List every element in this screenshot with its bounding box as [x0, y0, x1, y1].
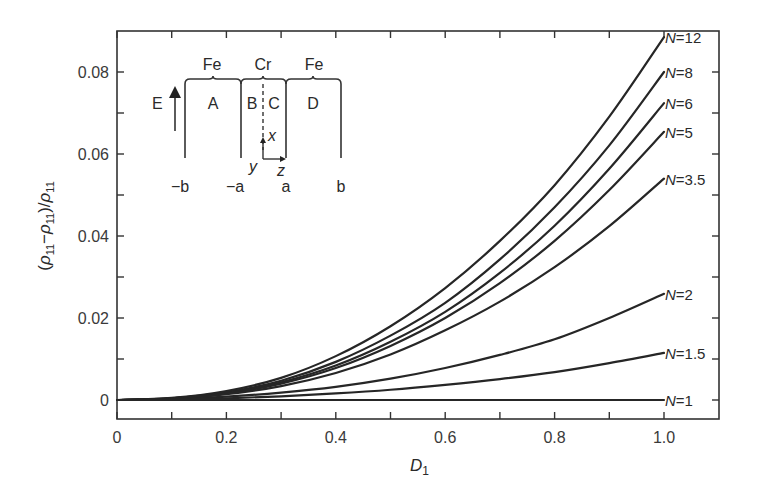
brace-fe-right: [286, 76, 341, 84]
label-fe-left: Fe: [203, 56, 222, 73]
region-c: C: [268, 95, 280, 112]
y-tick-label: 0.06: [78, 146, 109, 163]
x-tick-label: 0.8: [543, 429, 565, 446]
series-label: N=12: [665, 29, 701, 46]
coord-x-arrowhead-icon: [260, 137, 266, 143]
series-label: N=6: [665, 95, 693, 112]
series-label: N=8: [665, 64, 693, 81]
region-b: B: [247, 95, 258, 112]
y-tick-label: 0.02: [78, 310, 109, 327]
y-tick-label: 0.04: [78, 228, 109, 245]
svg-text:(ρ11−ρ11)/ρ11: (ρ11−ρ11)/ρ11: [35, 181, 56, 271]
y-axis-title: (ρ11−ρ11)/ρ11: [35, 181, 56, 271]
label-cr: Cr: [255, 56, 273, 73]
brace-cr: [241, 76, 286, 84]
chart: 00.20.40.60.81.000.020.040.060.08 N=12N=…: [0, 0, 759, 495]
series-label: N=2: [665, 286, 693, 303]
x-tick-label: 0.6: [434, 429, 456, 446]
arrow-up-icon: [169, 86, 181, 98]
x-tick-label: 0.4: [325, 429, 347, 446]
label-fe-right: Fe: [305, 56, 324, 73]
series-labels: N=12N=8N=6N=5N=3.5N=2N=1.5N=1: [665, 29, 705, 409]
curve-n-1-5: [117, 353, 664, 400]
coord-x-label: x: [267, 127, 277, 144]
region-d: D: [307, 95, 319, 112]
series-label: N=1: [665, 392, 693, 409]
field-label-e: E: [152, 95, 163, 112]
coord-y-label: y: [248, 158, 258, 175]
curve-n-8: [117, 72, 664, 400]
x-tick-label: 0.2: [215, 429, 237, 446]
data-curves: [117, 37, 664, 400]
axis-tick-labels: 00.20.40.60.81.000.020.040.060.08: [78, 64, 675, 446]
boundary-b: b: [337, 178, 346, 195]
y-tick-label: 0: [100, 392, 109, 409]
coord-z-label: z: [276, 162, 285, 179]
x-axis-title: D1: [410, 456, 429, 478]
curve-n-5: [117, 132, 664, 400]
x-tick-label: 0: [113, 429, 122, 446]
boundary-minus-b: −b: [171, 178, 189, 195]
region-a: A: [208, 95, 219, 112]
boundary-a: a: [282, 178, 291, 195]
series-label: N=5: [665, 124, 693, 141]
series-label: N=3.5: [665, 171, 705, 188]
boundary-minus-a: −a: [226, 178, 244, 195]
series-label: N=1.5: [665, 345, 705, 362]
y-tick-label: 0.08: [78, 64, 109, 81]
inset-schematic: Fe Cr Fe A B C D E x y z −b −a a b: [152, 56, 346, 195]
brace-fe-left: [185, 76, 241, 84]
x-tick-label: 1.0: [653, 429, 675, 446]
